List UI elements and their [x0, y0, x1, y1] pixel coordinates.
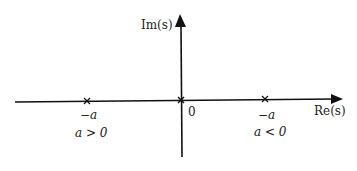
real-axis — [15, 99, 335, 102]
left-pole-condition-label: a > 0 — [75, 126, 108, 140]
imaginary-axis — [181, 26, 182, 157]
real-axis-arrowhead-icon — [331, 94, 343, 104]
left-pole-value-label: −a — [80, 108, 97, 122]
real-axis-label: Re(s) — [314, 104, 346, 118]
right-pole-value-label: −a — [258, 108, 275, 122]
origin-label: 0 — [188, 105, 196, 119]
imaginary-axis-arrowhead-icon — [175, 14, 186, 27]
right-pole-condition-label: a < 0 — [254, 125, 287, 139]
imaginary-axis-label: Im(s) — [141, 18, 173, 32]
s-plane-diagram: Im(s) Re(s) 0 −a a > 0 −a a < 0 — [0, 0, 357, 171]
